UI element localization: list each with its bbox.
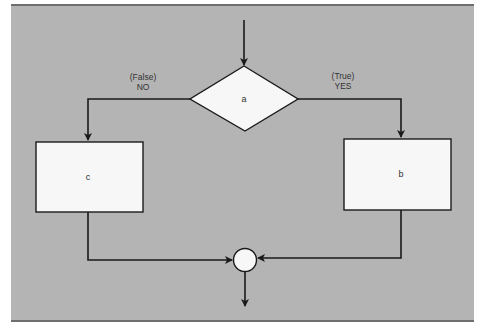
- false-branch-connector: [88, 99, 190, 140]
- decision-node[interactable]: a: [190, 66, 298, 131]
- no-label: NO: [137, 82, 150, 92]
- process-node-b[interactable]: b: [344, 139, 451, 210]
- b-to-junction-connector: [258, 210, 401, 258]
- junction-node[interactable]: [234, 249, 257, 272]
- false-branch-label: (False): [130, 72, 157, 82]
- flowchart: a (False) NO (True) YES c b: [0, 0, 482, 328]
- process-label-c: c: [86, 172, 91, 182]
- true-branch-connector: [298, 99, 401, 137]
- c-to-junction-connector: [88, 212, 232, 260]
- process-label-b: b: [398, 169, 403, 179]
- process-node-c[interactable]: c: [36, 142, 143, 212]
- yes-label: YES: [334, 81, 351, 91]
- true-branch-label: (True): [332, 71, 355, 81]
- decision-label: a: [241, 94, 246, 104]
